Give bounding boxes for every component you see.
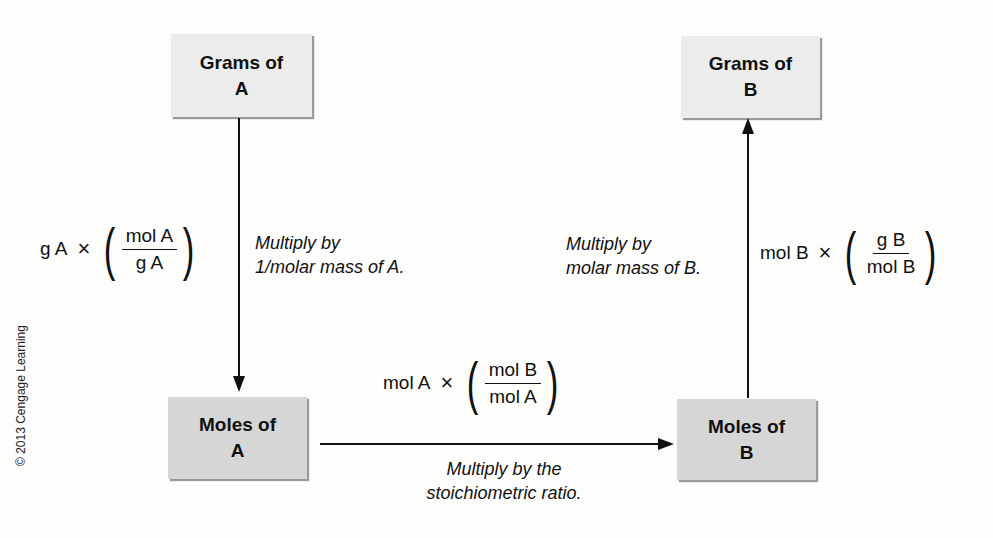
note-line2: molar mass of B.: [566, 256, 701, 280]
right-paren-icon: ): [925, 224, 937, 282]
formula-term: g A: [40, 238, 67, 260]
formula-term: mol B: [760, 242, 809, 264]
box-label-line1: Moles of: [199, 412, 276, 438]
formula-grams-to-moles-a: g A × ( mol A g A ): [40, 220, 199, 278]
left-paren-icon: (: [845, 224, 857, 282]
fraction-denominator: g A: [132, 250, 167, 274]
arrow-shaft: [238, 118, 240, 378]
note-grams-to-moles-a: Multiply by 1/molar mass of A.: [255, 231, 404, 279]
formula-moles-a-to-moles-b: mol A × ( mol B mol A ): [383, 354, 563, 412]
fraction: mol A g A: [122, 225, 178, 274]
note-line2: 1/molar mass of A.: [255, 255, 404, 279]
note-moles-a-to-moles-b: Multiply by the stoichiometric ratio.: [393, 457, 615, 505]
arrow-head-right-icon: [658, 438, 674, 450]
box-label-line2: B: [740, 440, 754, 466]
box-label-line1: Moles of: [708, 414, 785, 440]
fraction: g B mol B: [863, 229, 920, 278]
note-moles-to-grams-b: Multiply by molar mass of B.: [566, 232, 701, 280]
right-paren-icon: ): [183, 220, 195, 278]
box-moles-of-a: Moles of A: [168, 397, 307, 479]
fraction-denominator: mol A: [485, 384, 541, 408]
fraction: mol B mol A: [485, 359, 542, 408]
box-label-line2: B: [744, 77, 758, 103]
note-line1: Multiply by: [566, 232, 701, 256]
arrow-shaft: [747, 132, 749, 398]
note-line1: Multiply by the: [393, 457, 615, 481]
arrow-shaft: [320, 443, 660, 445]
box-moles-of-b: Moles of B: [677, 399, 816, 480]
note-line2: stoichiometric ratio.: [393, 481, 615, 505]
box-label-line1: Grams of: [709, 51, 792, 77]
fraction-denominator: mol B: [863, 254, 920, 278]
right-paren-icon: ): [547, 354, 559, 412]
multiply-icon: ×: [441, 370, 454, 396]
fraction-numerator: mol B: [485, 359, 542, 384]
multiply-icon: ×: [819, 240, 832, 266]
fraction-numerator: g B: [873, 229, 910, 254]
left-paren-icon: (: [104, 220, 116, 278]
box-label-line2: A: [231, 438, 245, 464]
formula-term: mol A: [383, 372, 431, 394]
multiply-icon: ×: [77, 236, 90, 262]
copyright-credit: © 2013 Cengage Learning: [14, 325, 28, 466]
formula-moles-to-grams-b: mol B × ( g B mol B ): [760, 224, 941, 282]
arrow-head-down-icon: [233, 376, 245, 392]
box-grams-of-b: Grams of B: [681, 36, 820, 118]
fraction-numerator: mol A: [122, 225, 178, 250]
box-label-line1: Grams of: [200, 50, 283, 76]
left-paren-icon: (: [467, 354, 479, 412]
note-line1: Multiply by: [255, 231, 404, 255]
box-label-line2: A: [235, 76, 249, 102]
box-grams-of-a: Grams of A: [171, 34, 312, 117]
